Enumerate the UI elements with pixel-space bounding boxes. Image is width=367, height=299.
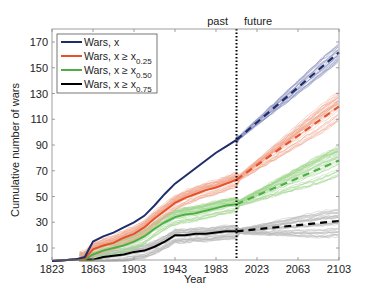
y-tick-label: 130 <box>30 88 48 100</box>
x-tick-label: 2103 <box>327 263 351 275</box>
y-tick-label: 110 <box>30 113 48 125</box>
y-tick-label: 30 <box>36 216 48 228</box>
y-tick-label: 50 <box>36 191 48 203</box>
x-tick-label: 1863 <box>81 263 105 275</box>
x-axis-label: Year <box>184 273 207 285</box>
legend-label: Wars, x <box>84 36 120 48</box>
y-tick-label: 10 <box>36 242 48 254</box>
x-tick-label: 2063 <box>286 263 310 275</box>
y-tick-label: 150 <box>30 62 48 74</box>
chart: 18231863190319431983202320632103 1030507… <box>0 0 367 299</box>
y-tick-label: 70 <box>36 165 48 177</box>
x-tick-label: 1903 <box>122 263 146 275</box>
y-tick-label: 170 <box>30 36 48 48</box>
legend: Wars, xWars, x ≥ x0.25Wars, x ≥ x0.50War… <box>57 34 157 94</box>
y-axis-label: Cumulative number of wars <box>9 83 21 217</box>
x-tick-label: 1983 <box>204 263 228 275</box>
y-tick-label: 90 <box>36 139 48 151</box>
series-past-0 <box>52 140 237 261</box>
past-label: past <box>207 15 228 27</box>
x-tick-label: 2023 <box>245 263 269 275</box>
future-label: future <box>244 15 272 27</box>
x-tick-label: 1823 <box>40 263 64 275</box>
